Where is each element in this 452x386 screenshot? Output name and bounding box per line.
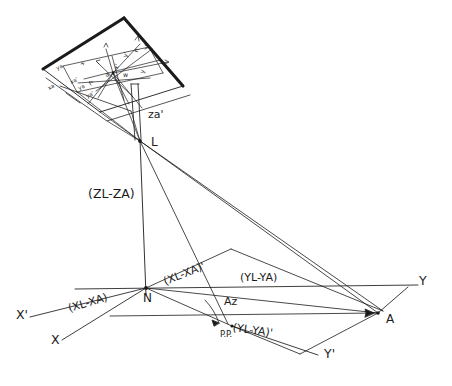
axis-Y xyxy=(75,285,418,289)
label-point-N: N xyxy=(143,292,152,304)
label-za-prime: za' xyxy=(148,109,164,120)
line-A-to-Y xyxy=(378,287,408,313)
label-principal-point: P.P. xyxy=(220,330,232,339)
label-point-A: A xyxy=(386,313,394,325)
photo-plane-outline xyxy=(43,18,183,86)
label-ZL-minus-ZA: (ZL-ZA) xyxy=(88,188,135,201)
perspective-rays-to-L xyxy=(77,73,140,141)
label-axis-X-prime: X' xyxy=(16,309,28,322)
photo-label-omega: w xyxy=(123,72,128,78)
label-axis-Y: Y xyxy=(419,275,427,288)
label-point-L: L xyxy=(151,136,158,148)
label-azimuth-angle: Az xyxy=(224,296,237,307)
vertical-axis-L-N xyxy=(140,140,146,295)
label-axis-X: X xyxy=(51,334,60,347)
photo-plane-inner-frame xyxy=(46,78,190,121)
label-YL-minus-YA: (YL-YA) xyxy=(240,272,277,283)
point-L-dot xyxy=(138,139,142,143)
point-A-dot xyxy=(376,311,380,315)
photo-plane-construction xyxy=(63,44,168,108)
diagram-canvas: ya xa xa' ya' ya x y y' x' n w a za' L (… xyxy=(0,0,452,386)
point-a-photo-dot xyxy=(112,72,115,75)
line-N-to-A xyxy=(146,288,378,313)
point-N-dot xyxy=(144,286,148,290)
label-axis-Y-prime: Y' xyxy=(324,348,335,361)
ray-L-to-PP xyxy=(140,141,228,324)
